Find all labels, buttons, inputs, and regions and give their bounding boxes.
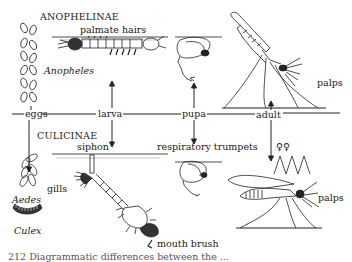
figure-caption: 212 Diagrammatic differences between the… — [8, 252, 229, 262]
label-palps-top: palps — [317, 78, 343, 88]
label-mouth-brush: mouth brush — [157, 239, 219, 249]
label-gills: gills — [47, 184, 67, 194]
label-respiratory-trumpets: respiratory trumpets — [157, 142, 258, 152]
stage-adult: adult — [256, 110, 281, 120]
genus-label-aedes: Aedes — [12, 195, 41, 205]
stage-pupa: pupa — [182, 109, 206, 119]
label-palps-bottom: palps — [318, 193, 344, 203]
anopheles-eggs — [19, 22, 38, 103]
culex-egg-raft — [13, 204, 42, 214]
culicine-pupa — [175, 161, 222, 196]
genus-label-anopheles: Anopheles — [44, 66, 94, 76]
label-siphon: siphon — [77, 142, 109, 152]
culicine-larva — [52, 154, 168, 248]
aedes-eggs — [18, 152, 38, 187]
subfamily-label-anophelinae: ANOPHELINAE — [40, 12, 119, 22]
stage-eggs: eggs — [25, 109, 48, 119]
stage-larva: larva — [98, 109, 122, 119]
subfamily-label-culicinae: CULICINAE — [37, 131, 97, 141]
arrows — [27, 81, 274, 172]
culicine-adult — [228, 156, 322, 228]
anopheles-pupa — [175, 37, 222, 81]
stage-timeline — [12, 113, 340, 114]
anopheles-larva — [52, 36, 168, 55]
genus-label-culex: Culex — [14, 226, 41, 236]
label-female-symbol: ♀♀ — [276, 142, 290, 152]
anopheles-adult — [222, 12, 326, 108]
label-palmate-hairs: palmate hairs — [80, 25, 146, 35]
